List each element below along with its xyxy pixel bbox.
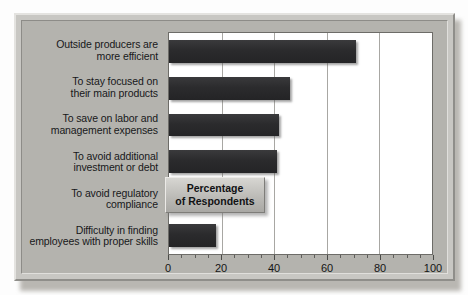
bar	[169, 224, 216, 247]
x-axis: 020406080100	[168, 255, 433, 281]
x-axis-minor-tick-15	[208, 255, 209, 258]
category-label-avoid-regulatory: To avoid regulatory compliance	[22, 181, 163, 218]
category-label-line: more efficient	[56, 51, 158, 63]
bar-row	[169, 107, 432, 144]
x-axis-minor-tick-50	[301, 255, 302, 258]
x-axis-tick-label-40: 40	[268, 262, 280, 274]
bar-row	[169, 70, 432, 107]
x-axis-minor-tick-90	[407, 255, 408, 258]
figure-inner-panel: Outside producers are more efficient To …	[21, 20, 448, 274]
x-axis-minor-tick-65	[340, 255, 341, 258]
x-axis-minor-tick-85	[393, 255, 394, 258]
category-label-line: employees with proper skills	[29, 236, 158, 248]
bar	[169, 77, 290, 100]
bar-row	[169, 217, 432, 254]
x-axis-major-tick-100	[433, 255, 434, 260]
x-axis-minor-tick-25	[234, 255, 235, 258]
x-axis-major-tick-0	[168, 255, 169, 260]
category-label-line: compliance	[71, 199, 158, 211]
x-axis-major-tick-40	[274, 255, 275, 260]
category-axis-labels: Outside producers are more efficient To …	[22, 32, 163, 255]
x-axis-tick-label-100: 100	[424, 262, 442, 274]
figure-outer-frame: Outside producers are more efficient To …	[14, 13, 455, 281]
x-axis-minor-tick-5	[181, 255, 182, 258]
x-axis-minor-tick-45	[287, 255, 288, 258]
category-label-avoid-investment: To avoid additional investment or debt	[22, 144, 163, 181]
bar-row	[169, 143, 432, 180]
x-axis-major-tick-20	[221, 255, 222, 260]
x-axis-major-tick-80	[380, 255, 381, 260]
bar-row	[169, 33, 432, 70]
legend-label-line: Percentage	[187, 182, 244, 195]
x-axis-major-tick-60	[327, 255, 328, 260]
category-label-line: management expenses	[51, 125, 158, 137]
x-axis-tick-label-80: 80	[374, 262, 386, 274]
category-label-line: their main products	[71, 88, 158, 100]
legend-percentage-of-respondents: Percentage of Respondents	[165, 177, 265, 213]
bar	[169, 40, 356, 63]
chart-page: Outside producers are more efficient To …	[0, 0, 468, 295]
category-label-stay-focused: To stay focused on their main products	[22, 69, 163, 106]
category-label-outside-producers: Outside producers are more efficient	[22, 32, 163, 69]
legend-label-line: of Respondents	[175, 195, 254, 208]
x-axis-minor-tick-75	[367, 255, 368, 258]
x-axis-tick-label-60: 60	[321, 262, 333, 274]
x-axis-minor-tick-10	[195, 255, 196, 258]
x-axis-tick-label-0: 0	[165, 262, 171, 274]
category-label-line: investment or debt	[73, 162, 158, 174]
bar-chart: Outside producers are more efficient To …	[22, 21, 447, 273]
category-label-difficulty-finding: Difficulty in finding employees with pro…	[22, 218, 163, 255]
x-axis-tick-label-20: 20	[215, 262, 227, 274]
x-axis-minor-tick-70	[354, 255, 355, 258]
bar	[169, 150, 277, 173]
bar-series	[169, 33, 432, 254]
category-label-line: Outside producers are	[56, 39, 158, 51]
bar	[169, 114, 279, 137]
category-label-save-on-labor: To save on labor and management expenses	[22, 106, 163, 143]
x-axis-minor-tick-35	[261, 255, 262, 258]
x-axis-minor-tick-95	[420, 255, 421, 258]
x-axis-minor-tick-30	[248, 255, 249, 258]
plot-area	[168, 32, 433, 255]
x-axis-minor-tick-55	[314, 255, 315, 258]
